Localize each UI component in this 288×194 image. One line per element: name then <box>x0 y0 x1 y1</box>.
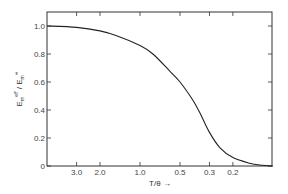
axes-frame <box>47 12 272 166</box>
y-tick-label: 0.8 <box>34 50 46 59</box>
x-tick-label: 3.0 <box>71 168 83 177</box>
y-tick-label: 1.0 <box>34 22 46 31</box>
svg-text:Emeff / Em∞: Emeff / Em∞ <box>13 71 25 106</box>
x-tick-label: 0.3 <box>204 168 216 177</box>
y-tick-label: 0.6 <box>34 78 46 87</box>
y-tick-label: 0 <box>41 162 46 171</box>
x-tick-label: 2.0 <box>94 168 106 177</box>
plot-area: 3.02.01.00.50.30.200.20.40.60.81.0 <box>34 12 273 177</box>
x-tick-label: 1.0 <box>134 168 146 177</box>
x-axis-label: T/θ → <box>149 179 171 188</box>
y-tick-label: 0.2 <box>34 134 46 143</box>
y-axis-label: Emeff / Em∞ <box>13 71 25 106</box>
x-tick-label: 0.2 <box>227 168 239 177</box>
x-tick-label: 0.5 <box>174 168 186 177</box>
chart: 3.02.01.00.50.30.200.20.40.60.81.0 T/θ →… <box>0 0 288 194</box>
data-curve <box>47 26 273 166</box>
y-tick-label: 0.4 <box>34 106 46 115</box>
